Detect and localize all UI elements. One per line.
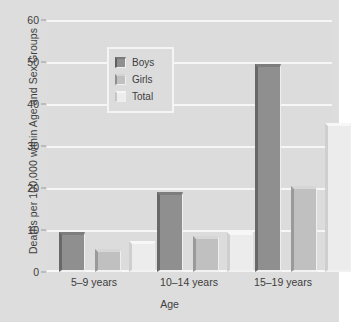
y-tick-label-10: 10 bbox=[0, 224, 39, 236]
y-tick-mark-10 bbox=[41, 230, 46, 231]
legend-item-girls[interactable]: Girls bbox=[115, 71, 166, 88]
y-tick-mark-50 bbox=[41, 62, 46, 63]
x-tick-label-5-9: 5–9 years bbox=[39, 276, 149, 288]
y-tick-label-30: 30 bbox=[0, 140, 39, 152]
legend-swatch-girls-icon bbox=[115, 74, 126, 85]
y-tick-mark-40 bbox=[41, 104, 46, 105]
bar-boys-10-14[interactable] bbox=[157, 192, 183, 272]
y-axis-ticks: 0 10 20 30 40 50 60 bbox=[0, 20, 47, 272]
plot-area: Boys Girls Total bbox=[47, 20, 332, 272]
x-tick-label-15-19: 15–19 years bbox=[228, 276, 338, 288]
bar-girls-5-9[interactable] bbox=[95, 249, 121, 272]
legend-item-boys[interactable]: Boys bbox=[115, 54, 166, 71]
legend-item-total[interactable]: Total bbox=[115, 88, 166, 105]
y-tick-mark-60 bbox=[41, 20, 46, 21]
legend-label-total: Total bbox=[132, 91, 153, 102]
bar-total-10-14[interactable] bbox=[227, 232, 253, 272]
legend-label-girls: Girls bbox=[132, 74, 153, 85]
y-tick-mark-30 bbox=[41, 146, 46, 147]
y-tick-label-40: 40 bbox=[0, 98, 39, 110]
bar-total-5-9[interactable] bbox=[129, 241, 155, 273]
y-tick-mark-20 bbox=[41, 188, 46, 189]
legend-label-boys: Boys bbox=[132, 57, 154, 68]
y-tick-mark-0 bbox=[41, 272, 46, 273]
bar-boys-5-9[interactable] bbox=[59, 232, 85, 272]
y-tick-label-60: 60 bbox=[0, 14, 39, 26]
y-tick-label-0: 0 bbox=[0, 266, 39, 278]
bar-girls-15-19[interactable] bbox=[291, 186, 317, 272]
bar-total-15-19[interactable] bbox=[325, 123, 351, 272]
legend-swatch-boys-icon bbox=[115, 57, 126, 68]
bar-girls-10-14[interactable] bbox=[193, 236, 219, 272]
y-tick-label-20: 20 bbox=[0, 182, 39, 194]
bar-series-container bbox=[47, 20, 332, 272]
bar-boys-15-19[interactable] bbox=[255, 64, 281, 272]
y-tick-label-50: 50 bbox=[0, 56, 39, 68]
chart-legend[interactable]: Boys Girls Total bbox=[107, 47, 174, 113]
x-axis-title: Age bbox=[0, 298, 339, 310]
legend-swatch-total-icon bbox=[115, 91, 126, 102]
